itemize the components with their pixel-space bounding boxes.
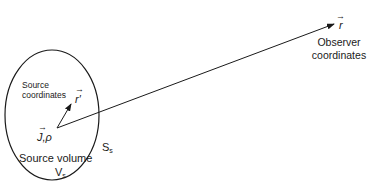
volume-subscript: s [62, 172, 66, 179]
source-vector-label: r′ [75, 93, 81, 106]
observer-label-line2: coordinates [304, 49, 374, 62]
source-coords-line2: coordinates [22, 90, 66, 100]
observer-coordinates-label: Observer coordinates [304, 36, 374, 62]
observer-position-arrow [57, 24, 334, 128]
source-coords-line1: Source [22, 80, 66, 90]
source-coordinates-label: Source coordinates [22, 80, 66, 100]
source-volume-label: Source volume [19, 152, 92, 165]
current-density-label: J,ρ [37, 131, 52, 144]
surface-subscript: s [109, 147, 113, 154]
observer-label-line1: Observer [304, 36, 374, 49]
observer-vector-label: r [339, 19, 343, 32]
surface-symbol: Ss [102, 141, 113, 157]
volume-symbol: Vs [55, 166, 66, 182]
source-position-arrow [57, 104, 71, 128]
